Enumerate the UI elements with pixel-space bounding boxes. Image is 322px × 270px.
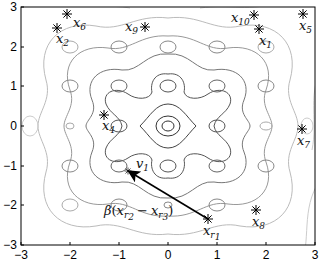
y-tick-label: 2 (10, 40, 17, 54)
y-tick-label: −3 (3, 238, 17, 252)
label-x10: x10 (231, 10, 250, 27)
star-marker-x6 (62, 9, 72, 19)
label-x5: x5 (299, 18, 312, 35)
star-marker-x9 (140, 22, 150, 32)
v1-label: v1 (136, 156, 149, 173)
label-x8: x8 (252, 214, 265, 231)
label-x6: x6 (73, 15, 86, 32)
difference-vector-label: β(xr2−xr3) (103, 203, 173, 222)
label-x2: x2 (56, 31, 69, 48)
y-tick-label: 0 (10, 119, 17, 133)
label-x1: x1 (259, 33, 272, 50)
y-tick-label: −1 (3, 159, 17, 173)
y-tick-label: 1 (10, 79, 17, 93)
contour-figure: −3 −2 −1 0 1 2 3 3 2 1 0 −1 −2 −3 v1 x6 … (0, 0, 322, 270)
x-tick-label: −2 (63, 248, 77, 262)
x-tick-label: 2 (263, 248, 270, 262)
label-x4: x4 (102, 118, 115, 135)
x-tick-label: 3 (312, 248, 319, 262)
label-x9: x9 (125, 19, 138, 36)
x-axis-tick-labels: −3 −2 −1 0 1 2 3 (14, 248, 319, 262)
x-tick-label: 0 (165, 248, 172, 262)
star-marker-x10 (249, 10, 259, 20)
y-tick-label: 3 (10, 0, 17, 14)
y-axis-tick-labels: 3 2 1 0 −1 −2 −3 (3, 0, 17, 252)
x-tick-label: 1 (214, 248, 221, 262)
label-x7: x7 (297, 133, 310, 150)
x-tick-label: −1 (112, 248, 126, 262)
y-tick-label: −2 (3, 198, 17, 212)
mutant-vector-marker (125, 168, 132, 175)
